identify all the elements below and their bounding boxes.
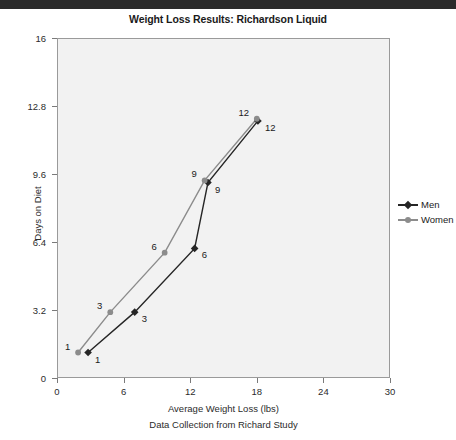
x-tick-label: 6	[104, 386, 144, 397]
y-tick-label: 12.8	[0, 101, 46, 112]
x-axis-subtitle: Data Collection from Richard Study	[57, 419, 390, 430]
legend-label-women: Women	[418, 214, 454, 225]
data-point-marker[interactable]	[75, 350, 81, 356]
data-point-label: 3	[97, 300, 102, 311]
x-axis-title: Average Weight Loss (lbs)	[57, 403, 390, 414]
x-tick-label: 0	[37, 386, 77, 397]
x-tick-mark	[390, 378, 391, 383]
legend-marker-men	[398, 199, 418, 210]
series-line-women	[78, 119, 257, 353]
data-point-label: 12	[238, 107, 249, 118]
y-tick-mark	[52, 174, 57, 175]
data-point-label: 9	[191, 168, 196, 179]
y-tick-mark	[52, 38, 57, 39]
x-tick-label: 12	[170, 386, 210, 397]
y-tick-mark	[52, 106, 57, 107]
data-point-label: 1	[65, 341, 70, 352]
x-tick-mark	[323, 378, 324, 383]
data-point-marker[interactable]	[162, 250, 168, 256]
y-tick-mark	[52, 310, 57, 311]
plot-series-svg	[57, 38, 390, 378]
legend-item-women[interactable]: Women	[398, 212, 456, 227]
legend-marker-women	[398, 214, 418, 225]
x-tick-label: 30	[370, 386, 410, 397]
x-tick-label: 24	[303, 386, 343, 397]
y-tick-label: 3.2	[0, 305, 46, 316]
x-tick-label: 18	[237, 386, 277, 397]
chart-title: Weight Loss Results: Richardson Liquid	[0, 13, 456, 25]
y-tick-label: 0	[0, 373, 46, 384]
legend-item-men[interactable]: Men	[398, 197, 456, 212]
legend-label-men: Men	[418, 199, 439, 210]
x-tick-mark	[57, 378, 58, 383]
data-point-label: 9	[215, 184, 220, 195]
data-point-marker[interactable]	[107, 309, 113, 315]
data-point-label: 6	[202, 249, 207, 260]
data-point-label: 6	[151, 241, 156, 252]
data-point-label: 12	[265, 122, 276, 133]
window-title-bar	[0, 0, 456, 9]
data-point-label: 3	[142, 313, 147, 324]
x-tick-mark	[257, 378, 258, 383]
data-point-label: 1	[95, 354, 100, 365]
chart-legend: Men Women	[398, 197, 456, 227]
x-tick-mark	[190, 378, 191, 383]
data-point-marker[interactable]	[202, 177, 208, 183]
data-point-marker[interactable]	[254, 116, 260, 122]
x-tick-mark	[124, 378, 125, 383]
chart-container: Weight Loss Results: Richardson Liquid 0…	[0, 9, 456, 440]
y-tick-label: 16	[0, 33, 46, 44]
y-axis-title: Days on Diet	[32, 169, 43, 259]
y-tick-mark	[52, 242, 57, 243]
